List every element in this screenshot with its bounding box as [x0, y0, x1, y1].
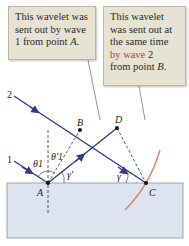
callout-wavelet-a: This wavelet was sent out by wave 1 from…	[8, 6, 96, 60]
gamma-arc	[126, 171, 128, 183]
ray-1-label: 1	[7, 154, 12, 165]
callout-wavelet-b: This wavelet was sent out at the same ti…	[103, 6, 186, 86]
callout-b-line5: from point B.	[110, 61, 179, 74]
point-c-label: C	[149, 187, 156, 198]
callout-b-line4: by wave 2	[110, 49, 179, 62]
gamma-prime-arc	[62, 172, 64, 183]
gamma-prime-label: γ'	[67, 169, 74, 180]
point-b-label: B	[77, 117, 83, 128]
point-d-label: D	[114, 114, 123, 125]
callout-a-line1: This wavelet was	[15, 11, 89, 24]
callout-a-line2: sent out by wave	[15, 24, 89, 37]
wavefront-dc	[117, 128, 146, 183]
callout-b-line3: the same time	[110, 36, 179, 49]
ray-1-arrow-icon	[22, 167, 30, 172]
callout-b-line2: was sent out at	[110, 24, 179, 37]
theta1-arc	[38, 171, 48, 177]
glass-surface	[7, 183, 183, 238]
point-a-dot	[46, 181, 50, 185]
ray-1-reflected-arrow-icon	[76, 156, 82, 161]
point-d-dot	[115, 126, 119, 130]
callout-b-line1: This wavelet	[110, 11, 179, 24]
gamma-label: γ	[117, 171, 122, 182]
point-a-label: A	[36, 187, 44, 198]
point-b-dot	[78, 128, 82, 132]
callout-a-pointer	[88, 60, 100, 120]
ray-2-label: 2	[7, 89, 12, 100]
point-c-dot	[144, 181, 148, 185]
theta1-prime-arc	[48, 171, 55, 173]
theta1-label: θ1	[33, 158, 43, 169]
callout-a-line3: 1 from point A.	[15, 36, 89, 49]
theta1-prime-label: θ'1	[51, 151, 63, 162]
callout-b-pointer	[139, 86, 145, 120]
ray-2-arrow-icon	[30, 107, 36, 111]
